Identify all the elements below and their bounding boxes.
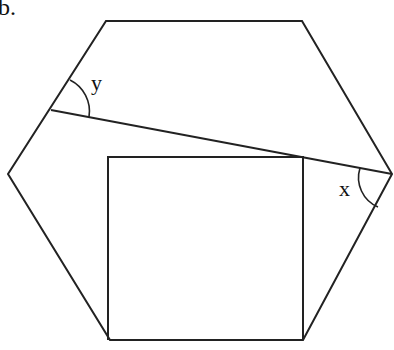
diagram-canvas: b. y x: [0, 0, 394, 350]
angle-label-y: y: [91, 70, 102, 96]
angle-arc-y: [70, 80, 89, 117]
angle-label-x: x: [339, 176, 350, 202]
transversal-line: [51, 110, 392, 174]
hexagon: [8, 21, 392, 340]
figure-label: b.: [0, 0, 16, 21]
square: [108, 157, 303, 340]
geometry-figure: [0, 0, 394, 350]
angle-arc-x: [359, 168, 378, 207]
